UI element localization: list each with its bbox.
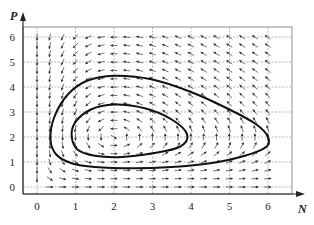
arrowhead-icon [128, 169, 131, 172]
arrowhead-icon [36, 96, 39, 99]
arrowhead-icon [61, 113, 64, 116]
arrowhead-icon [115, 169, 118, 172]
arrowhead-icon [256, 186, 258, 189]
y-axis-label: P [10, 9, 18, 23]
arrowhead-icon [123, 86, 126, 89]
arrowhead-icon [179, 177, 182, 180]
arrowhead-icon [123, 94, 126, 97]
arrowhead-icon [115, 144, 118, 147]
arrowhead-icon [36, 88, 39, 91]
arrowhead-icon [98, 44, 101, 47]
phase-portrait-chart: P N 0123456 0123456 [0, 0, 314, 225]
arrowhead-icon [36, 155, 39, 158]
x-tick-labels: 0123456 [34, 200, 271, 212]
arrowhead-icon [74, 138, 77, 141]
arrowhead-icon [192, 177, 195, 180]
outer-orbit [50, 76, 269, 169]
arrowhead-icon [110, 77, 113, 80]
arrowhead-icon [110, 52, 113, 55]
arrowhead-icon [243, 186, 246, 189]
arrowhead-icon [151, 134, 154, 137]
y-tick-labels: 0123456 [10, 31, 16, 193]
arrowhead-icon [123, 110, 126, 113]
arrowhead-icon [136, 44, 139, 47]
arrowhead-icon [98, 53, 101, 56]
arrowhead-icon [202, 134, 205, 137]
x-axis-arrow-icon [296, 191, 305, 197]
arrowhead-icon [89, 186, 92, 189]
y-tick-label: 4 [10, 81, 16, 93]
arrowhead-icon [51, 186, 54, 189]
arrowhead-icon [98, 94, 101, 97]
arrowhead-icon [36, 138, 39, 141]
arrowhead-icon [128, 186, 131, 189]
arrowhead-icon [228, 134, 231, 137]
arrowhead-icon [166, 177, 169, 180]
arrowhead-icon [85, 95, 88, 98]
arrowhead-icon [136, 52, 139, 55]
x-tick-label: 4 [188, 200, 194, 212]
arrowhead-icon [48, 71, 51, 74]
arrowhead-icon [268, 169, 271, 172]
x-tick-label: 2 [111, 200, 117, 212]
arrowhead-icon [102, 153, 105, 156]
y-axis-arrow-icon [20, 12, 26, 21]
arrowhead-icon [48, 55, 51, 58]
arrowhead-icon [48, 63, 51, 66]
arrowhead-icon [189, 134, 192, 137]
arrowhead-icon [36, 63, 39, 66]
arrowhead-icon [48, 46, 51, 49]
arrowhead-icon [136, 69, 139, 72]
arrowhead-icon [252, 68, 255, 71]
arrowhead-icon [36, 38, 39, 41]
arrowhead-icon [74, 129, 77, 132]
arrowhead-icon [177, 134, 180, 137]
arrowhead-icon [138, 134, 141, 137]
arrowhead-icon [226, 77, 229, 80]
arrowhead-icon [98, 69, 101, 72]
arrowhead-icon [215, 134, 218, 137]
arrowhead-icon [115, 177, 118, 180]
y-tick-label: 0 [10, 181, 16, 193]
arrowhead-icon [256, 169, 259, 172]
y-tick-label: 5 [10, 56, 16, 68]
arrowhead-icon [36, 113, 39, 116]
y-tick-label: 1 [10, 156, 16, 168]
arrowhead-icon [110, 69, 113, 72]
arrowhead-icon [153, 177, 156, 180]
arrowhead-icon [89, 177, 92, 180]
arrowhead-icon [166, 186, 169, 189]
arrowhead-icon [110, 119, 113, 122]
arrowhead-icon [36, 105, 39, 108]
arrowhead-icon [202, 118, 205, 121]
arrowhead-icon [115, 186, 118, 189]
arrowhead-icon [36, 171, 39, 174]
x-tick-label: 6 [265, 200, 271, 212]
arrowhead-icon [100, 138, 103, 141]
arrowhead-icon [175, 102, 178, 105]
arrowhead-icon [110, 127, 113, 130]
arrowhead-icon [87, 138, 90, 141]
arrowhead-icon [36, 121, 39, 124]
arrowhead-icon [102, 169, 105, 172]
arrowhead-icon [102, 186, 105, 189]
arrowhead-icon [230, 186, 233, 189]
arrowhead-icon [230, 177, 233, 180]
arrowhead-icon [36, 71, 39, 74]
arrowhead-icon [61, 121, 64, 124]
arrowhead-icon [217, 169, 220, 172]
arrowhead-icon [204, 169, 207, 172]
arrowhead-icon [241, 134, 244, 137]
arrowhead-icon [48, 113, 51, 116]
arrowhead-icon [269, 177, 272, 180]
arrowhead-icon [192, 186, 195, 189]
arrowhead-icon [243, 177, 246, 180]
arrowhead-icon [36, 180, 39, 183]
arrowhead-icon [217, 177, 220, 180]
arrowhead-icon [153, 160, 156, 163]
arrowhead-icon [110, 86, 113, 89]
arrowhead-icon [48, 38, 51, 41]
arrowhead-icon [269, 186, 272, 189]
arrowhead-icon [110, 94, 113, 97]
arrowhead-icon [217, 186, 220, 189]
